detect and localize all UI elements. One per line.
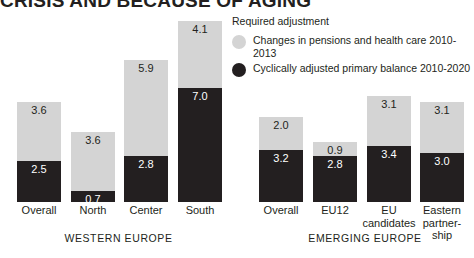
group-caption-western-europe: WESTERN EUROPE (0, 232, 237, 244)
bar-value-label: 0.9 (313, 144, 357, 157)
bar-group: 5.92.8 (124, 60, 168, 202)
bar-segment-primary-balance: 3.0 (420, 153, 464, 202)
bar-value-label: 3.4 (367, 148, 411, 161)
bar-segment-pensions: 0.9 (313, 142, 357, 157)
bar-segment-pensions: 3.6 (17, 102, 61, 161)
bar-segment-pensions: 5.9 (124, 60, 168, 156)
bar-value-label: 2.0 (259, 119, 303, 132)
bar-value-label: 4.1 (178, 23, 222, 36)
bar-group: 3.62.5 (17, 102, 61, 202)
bar-segment-pensions: 3.1 (367, 96, 411, 147)
bar-segment-pensions: 2.0 (259, 117, 303, 150)
bar-value-label: 5.9 (124, 62, 168, 75)
bar-segment-pensions: 4.1 (178, 21, 222, 88)
bar-segment-primary-balance: 0.7 (71, 191, 115, 202)
bar-group: 3.13.0 (420, 102, 464, 202)
bar-group: 3.60.7 (71, 132, 115, 202)
bar-value-label: 3.1 (367, 98, 411, 111)
bar-value-label: 3.1 (420, 104, 464, 117)
category-label: South (168, 204, 232, 217)
bar-value-label: 3.6 (71, 134, 115, 147)
bar-segment-pensions: 3.6 (71, 132, 115, 191)
bar-segment-primary-balance: 7.0 (178, 88, 222, 202)
bar-value-label: 7.0 (178, 90, 222, 103)
bar-group: 4.17.0 (178, 21, 222, 202)
bar-group: 2.03.2 (259, 117, 303, 202)
bar-segment-primary-balance: 3.4 (367, 146, 411, 202)
bar-segment-primary-balance: 2.8 (124, 156, 168, 202)
bar-value-label: 2.5 (17, 163, 61, 176)
bar-segment-pensions: 3.1 (420, 102, 464, 153)
bar-group: 0.92.8 (313, 142, 357, 202)
bar-value-label: 2.8 (313, 158, 357, 171)
plot-area: 3.62.5Overall3.60.7North5.92.8Center4.17… (0, 0, 474, 258)
bar-group: 3.13.4 (367, 96, 411, 202)
bar-segment-primary-balance: 2.8 (313, 156, 357, 202)
bar-value-label: 3.6 (17, 104, 61, 117)
bar-segment-primary-balance: 2.5 (17, 161, 61, 202)
bar-value-label: 3.0 (420, 155, 464, 168)
bar-value-label: 3.2 (259, 152, 303, 165)
bar-value-label: 2.8 (124, 158, 168, 171)
bar-segment-primary-balance: 3.2 (259, 150, 303, 202)
group-caption-emerging-europe: EMERGING EUROPE (250, 232, 474, 244)
